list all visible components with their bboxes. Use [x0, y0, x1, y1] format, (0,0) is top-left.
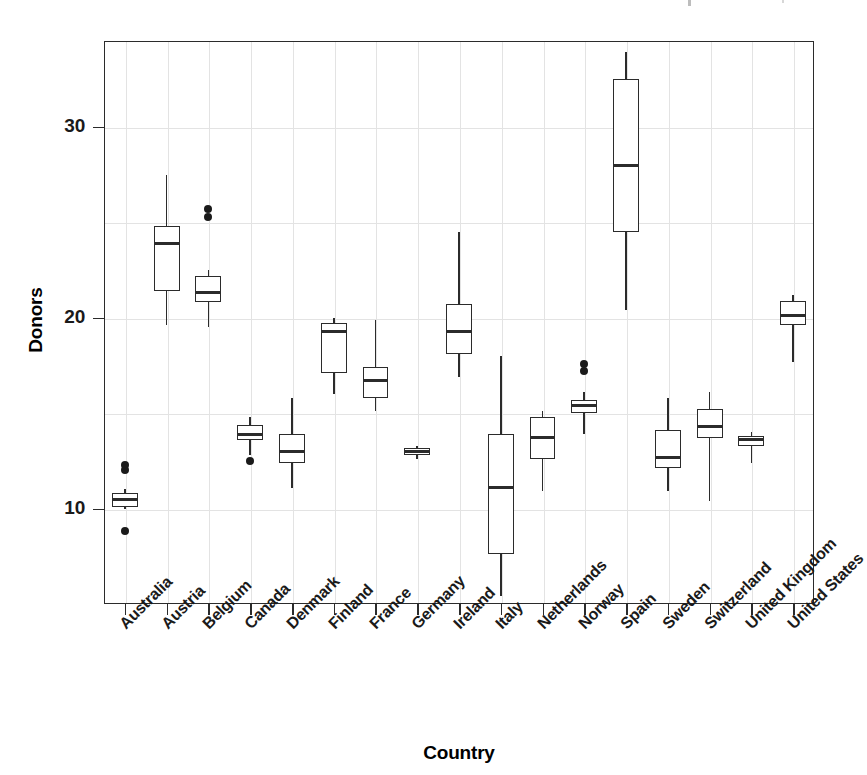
x-gridline: [209, 42, 210, 603]
whisker-lower: [709, 438, 711, 501]
whisker-lower: [249, 440, 251, 455]
y-tick-label: 20: [38, 306, 85, 328]
top-edge-artifact: [688, 0, 691, 6]
y-gridline-minor: [105, 223, 813, 224]
x-axis-title: Country: [104, 742, 814, 764]
whisker-upper: [583, 392, 585, 400]
whisker-lower: [124, 507, 126, 509]
whisker-lower: [333, 373, 335, 394]
box-sweden: [655, 430, 681, 468]
box-denmark: [279, 434, 305, 463]
whisker-lower: [208, 302, 210, 327]
median-line: [279, 450, 305, 453]
x-gridline: [711, 42, 712, 603]
x-gridline: [752, 42, 753, 603]
outlier-point: [246, 457, 254, 465]
y-tick-mark: [93, 318, 104, 320]
whisker-lower: [583, 413, 585, 434]
whisker-lower: [542, 459, 544, 491]
median-line: [530, 436, 556, 439]
median-line: [195, 291, 221, 294]
median-line: [655, 456, 681, 459]
whisker-upper: [709, 392, 711, 409]
whisker-lower: [458, 354, 460, 377]
whisker-lower: [625, 232, 627, 310]
median-line: [697, 425, 723, 428]
whisker-lower: [166, 291, 168, 325]
median-line: [571, 404, 597, 407]
median-line: [237, 433, 263, 436]
median-line: [321, 330, 347, 333]
box-italy: [488, 434, 514, 554]
whisker-lower: [667, 468, 669, 491]
whisker-lower: [500, 554, 502, 596]
x-gridline: [376, 42, 377, 603]
median-line: [738, 438, 764, 441]
whisker-upper: [500, 356, 502, 434]
median-line: [404, 450, 430, 453]
whisker-upper: [667, 398, 669, 430]
x-gridline: [418, 42, 419, 603]
median-line: [488, 486, 514, 489]
x-gridline: [293, 42, 294, 603]
median-line: [613, 164, 639, 167]
box-france: [363, 367, 389, 398]
y-tick-label: 30: [38, 115, 85, 137]
y-tick-mark: [93, 509, 104, 511]
whisker-upper: [375, 320, 377, 368]
y-tick-mark: [93, 127, 104, 129]
y-tick-label: 10: [38, 497, 85, 519]
whisker-lower: [792, 325, 794, 361]
box-united-states: [780, 301, 806, 326]
top-edge-artifact-2: [782, 0, 784, 3]
x-gridline: [544, 42, 545, 603]
whisker-lower: [751, 446, 753, 463]
outlier-point: [580, 360, 588, 368]
whisker-upper: [249, 417, 251, 425]
x-gridline: [126, 42, 127, 603]
median-line: [780, 314, 806, 317]
median-line: [154, 242, 180, 245]
outlier-point: [204, 213, 212, 221]
box-belgium: [195, 276, 221, 303]
median-line: [363, 379, 389, 382]
whisker-lower: [416, 455, 418, 459]
outlier-point: [121, 461, 129, 469]
whisker-upper: [291, 398, 293, 434]
x-gridline: [168, 42, 169, 603]
box-spain: [613, 79, 639, 232]
whisker-lower: [375, 398, 377, 411]
x-gridline: [251, 42, 252, 603]
whisker-upper: [625, 52, 627, 79]
x-gridline: [585, 42, 586, 603]
median-line: [446, 330, 472, 333]
y-gridline: [105, 510, 813, 511]
box-austria: [154, 226, 180, 291]
whisker-lower: [291, 463, 293, 488]
whisker-upper: [166, 175, 168, 227]
whisker-upper: [458, 232, 460, 305]
x-gridline: [669, 42, 670, 603]
y-gridline: [105, 128, 813, 129]
median-line: [112, 498, 138, 501]
box-switzerland: [697, 409, 723, 438]
